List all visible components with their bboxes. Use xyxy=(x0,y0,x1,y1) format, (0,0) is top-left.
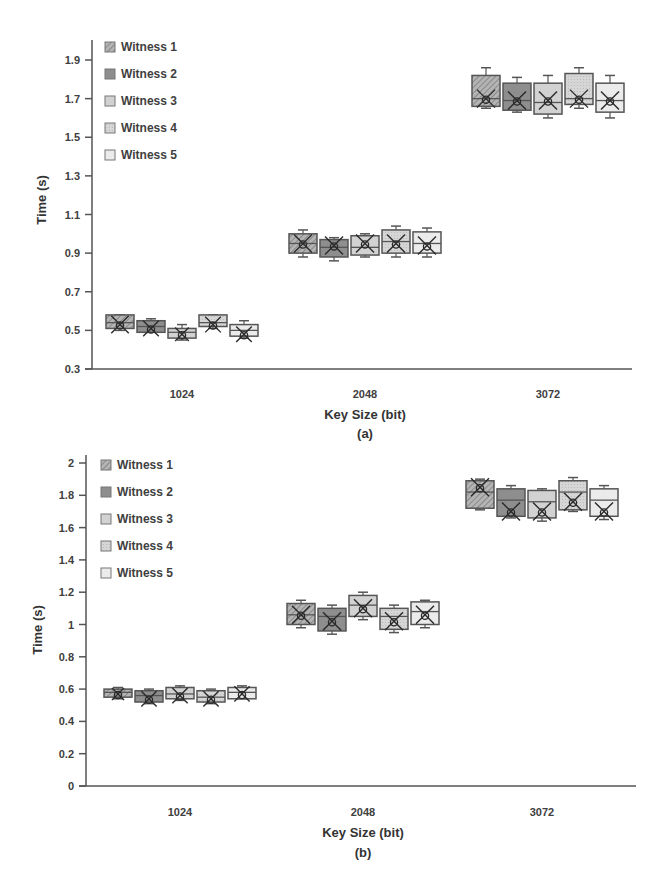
chart-b-xtick-2048: 2048 xyxy=(351,806,375,818)
legend-label: Witness 1 xyxy=(121,40,177,54)
box-witness-2-2048 xyxy=(320,236,348,260)
box-witness-5-1024 xyxy=(228,686,256,702)
chart-b-caption: (b) xyxy=(355,845,372,860)
y-tick-label: 1.6 xyxy=(59,522,74,534)
chart-a-plot-area: 0.30.50.70.91.11.31.51.71.9 xyxy=(65,40,632,375)
chart-b-x-axis-title: Key Size (bit) xyxy=(322,825,404,840)
legend-item-witness-2: Witness 2 xyxy=(105,67,177,81)
box-witness-4-2048 xyxy=(380,605,408,632)
box-witness-2-3072 xyxy=(503,77,531,112)
y-tick-label: 0.4 xyxy=(59,715,75,727)
legend-swatch xyxy=(101,514,111,524)
y-tick-label: 0.7 xyxy=(65,286,80,298)
chart-b: 00.20.40.60.811.21.41.61.82 1024 2048 30… xyxy=(30,455,636,860)
chart-b-legend: Witness 1Witness 2Witness 3Witness 4Witn… xyxy=(101,458,173,580)
chart-b-plot-area: 00.20.40.60.811.21.41.61.82 xyxy=(59,455,636,792)
y-tick-label: 1.4 xyxy=(59,554,75,566)
figure-boxplots: 0.30.50.70.91.11.31.51.71.9 1024 2048 30… xyxy=(0,0,663,892)
legend-item-witness-5: Witness 5 xyxy=(101,566,173,580)
chart-a-xtick-1024: 1024 xyxy=(170,388,195,400)
legend-label: Witness 2 xyxy=(117,485,173,499)
legend-item-witness-4: Witness 4 xyxy=(105,121,177,135)
chart-a-caption: (a) xyxy=(357,426,373,441)
y-tick-label: 0.2 xyxy=(59,748,74,760)
legend-item-witness-3: Witness 3 xyxy=(101,512,173,526)
legend-swatch xyxy=(105,69,115,79)
chart-a-x-axis-title: Key Size (bit) xyxy=(324,407,406,422)
chart-a: 0.30.50.70.91.11.31.51.71.9 1024 2048 30… xyxy=(34,40,632,441)
legend-swatch xyxy=(105,42,115,52)
legend-label: Witness 1 xyxy=(117,458,173,472)
legend-swatch xyxy=(105,150,115,160)
legend-item-witness-1: Witness 1 xyxy=(105,40,177,54)
legend-label: Witness 3 xyxy=(117,512,173,526)
box-witness-1-1024 xyxy=(104,687,132,699)
y-tick-label: 1.5 xyxy=(65,131,80,143)
box-witness-4-1024 xyxy=(199,315,227,332)
y-tick-label: 1.8 xyxy=(59,489,74,501)
legend-item-witness-5: Witness 5 xyxy=(105,148,177,162)
box-witness-1-3072 xyxy=(466,478,494,510)
box-witness-2-2048 xyxy=(318,605,346,634)
legend-label: Witness 5 xyxy=(121,148,177,162)
legend-label: Witness 2 xyxy=(121,67,177,81)
box-witness-2-3072 xyxy=(497,486,525,521)
box-witness-3-3072 xyxy=(528,489,556,521)
legend-label: Witness 5 xyxy=(117,566,173,580)
legend-swatch xyxy=(105,123,115,133)
chart-a-legend: Witness 1Witness 2Witness 3Witness 4Witn… xyxy=(105,40,177,162)
y-tick-label: 1.3 xyxy=(65,170,80,182)
box-witness-4-3072 xyxy=(565,68,593,109)
box-witness-3-2048 xyxy=(349,592,377,619)
box-witness-1-3072 xyxy=(472,68,500,109)
box-witness-1-2048 xyxy=(287,600,315,627)
box-witness-2-1024 xyxy=(135,689,163,706)
y-tick-label: 0.6 xyxy=(59,683,74,695)
chart-a-y-axis-title: Time (s) xyxy=(34,175,49,225)
y-tick-label: 1 xyxy=(68,619,74,631)
box-witness-5-3072 xyxy=(596,75,624,117)
legend-swatch xyxy=(105,96,115,106)
box-witness-4-1024 xyxy=(197,689,225,706)
chart-b-xtick-1024: 1024 xyxy=(168,806,193,818)
legend-swatch xyxy=(101,460,111,470)
box-witness-5-1024 xyxy=(230,321,258,342)
y-tick-label: 1.1 xyxy=(65,209,80,221)
y-tick-label: 2 xyxy=(68,457,74,469)
y-tick-label: 1.2 xyxy=(59,586,74,598)
box-witness-3-1024 xyxy=(166,686,194,703)
legend-item-witness-3: Witness 3 xyxy=(105,94,177,108)
y-tick-label: 0.8 xyxy=(59,651,74,663)
legend-label: Witness 3 xyxy=(121,94,177,108)
box-witness-5-3072 xyxy=(590,486,618,521)
legend-swatch xyxy=(101,541,111,551)
y-tick-label: 0.5 xyxy=(65,324,80,336)
y-tick-label: 0.9 xyxy=(65,247,80,259)
box-witness-3-1024 xyxy=(168,325,196,341)
chart-b-y-axis-title: Time (s) xyxy=(30,605,45,655)
chart-a-xtick-2048: 2048 xyxy=(353,388,377,400)
box-witness-1-1024 xyxy=(106,315,134,333)
legend-item-witness-1: Witness 1 xyxy=(101,458,173,472)
box-witness-5-2048 xyxy=(413,228,441,257)
chart-a-xtick-3072: 3072 xyxy=(536,388,560,400)
legend-label: Witness 4 xyxy=(117,539,173,553)
box-witness-4-3072 xyxy=(559,478,587,512)
legend-swatch xyxy=(101,487,111,497)
y-tick-label: 1.7 xyxy=(65,93,80,105)
y-tick-label: 0.3 xyxy=(65,363,80,375)
box-witness-1-2048 xyxy=(289,230,317,257)
y-tick-label: 0 xyxy=(68,780,74,792)
legend-item-witness-2: Witness 2 xyxy=(101,485,173,499)
legend-swatch xyxy=(101,568,111,578)
chart-b-xtick-3072: 3072 xyxy=(530,806,554,818)
legend-item-witness-4: Witness 4 xyxy=(101,539,173,553)
box-witness-3-2048 xyxy=(351,234,379,257)
y-tick-label: 1.9 xyxy=(65,54,80,66)
box-witness-5-2048 xyxy=(411,600,439,627)
box-witness-2-1024 xyxy=(137,319,165,336)
box-witness-4-2048 xyxy=(382,226,410,257)
box-witness-3-3072 xyxy=(534,75,562,117)
legend-label: Witness 4 xyxy=(121,121,177,135)
